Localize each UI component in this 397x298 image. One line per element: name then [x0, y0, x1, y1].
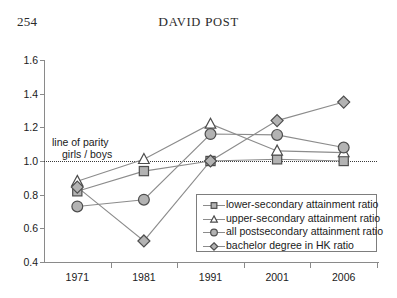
- x-tick-mark: [310, 263, 311, 268]
- data-point: [205, 118, 216, 128]
- data-point: [272, 130, 283, 141]
- legend-item-label: all postsecondary attainment ratio: [226, 225, 383, 238]
- legend-item-label: upper-secondary attainment ratio: [226, 212, 380, 225]
- data-point: [139, 194, 150, 205]
- data-point: [72, 201, 83, 212]
- data-point: [271, 115, 283, 127]
- y-tick-label: 1.4: [23, 88, 38, 100]
- x-tick-mark: [111, 263, 112, 268]
- x-tick-label: 1991: [199, 271, 222, 283]
- page-canvas: 254 DAVID POST 0.40.60.81.01.21.41.6 lin…: [0, 0, 397, 298]
- legend-marker-triangle-icon: [202, 212, 226, 225]
- legend-item[interactable]: upper-secondary attainment ratio: [202, 212, 376, 225]
- x-tick-mark: [377, 263, 378, 268]
- legend-item[interactable]: bachelor degree in HK ratio: [202, 239, 376, 252]
- data-point: [339, 156, 348, 165]
- x-axis-ticks: 19711981199120012006: [44, 263, 379, 293]
- legend-item-label: lower-secondary attainment ratio: [226, 198, 378, 211]
- y-tick-label: 0.6: [23, 222, 38, 234]
- x-tick-label: 1971: [66, 271, 89, 283]
- data-point: [338, 96, 350, 108]
- legend-item[interactable]: lower-secondary attainment ratio: [202, 198, 376, 211]
- legend-item[interactable]: all postsecondary attainment ratio: [202, 225, 376, 238]
- y-tick-label: 0.4: [23, 256, 38, 268]
- data-point: [139, 154, 150, 164]
- chart-legend: lower-secondary attainment ratioupper-se…: [196, 194, 377, 252]
- x-tick-mark: [244, 263, 245, 268]
- data-point: [139, 167, 148, 176]
- x-tick-label: 1981: [132, 271, 155, 283]
- data-point: [272, 145, 283, 155]
- y-tick-label: 0.8: [23, 189, 38, 201]
- x-tick-mark: [177, 263, 178, 268]
- legend-marker-square-icon: [202, 198, 226, 211]
- y-tick-label: 1.2: [23, 121, 38, 133]
- legend-marker-diamond-icon: [202, 239, 226, 252]
- data-point: [205, 129, 216, 140]
- data-point: [338, 142, 349, 153]
- data-point: [273, 155, 282, 164]
- legend-marker-circle-icon: [202, 225, 226, 238]
- y-tick-label: 1.6: [23, 54, 38, 66]
- chart-figure: 0.40.60.81.01.21.41.6 line of paritygirl…: [0, 0, 397, 298]
- x-tick-label: 2006: [332, 271, 355, 283]
- y-tick-label: 1.0: [23, 155, 38, 167]
- legend-item-label: bachelor degree in HK ratio: [226, 239, 354, 252]
- x-tick-label: 2001: [265, 271, 288, 283]
